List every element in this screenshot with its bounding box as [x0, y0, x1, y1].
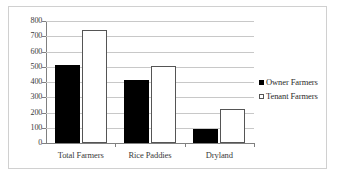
- x-axis-separator-tick: [115, 143, 116, 147]
- y-axis-tick-labels: 0100200300400500600700800: [14, 21, 42, 143]
- y-axis-tick: [42, 82, 46, 83]
- legend-label: Tenant Farmers: [266, 92, 318, 101]
- y-axis-tick: [42, 21, 46, 22]
- x-axis-category-label: Dryland: [185, 150, 254, 160]
- plot-area: [46, 21, 254, 143]
- y-axis-tick-label: 800: [16, 17, 42, 25]
- bar-tenant-farmers[interactable]: [220, 109, 245, 143]
- y-axis-tick: [42, 97, 46, 98]
- y-axis-tick: [42, 52, 46, 53]
- legend-item-tenant-farmers[interactable]: Tenant Farmers: [259, 89, 325, 103]
- bar-owner-farmers[interactable]: [55, 65, 80, 143]
- y-axis-tick: [42, 36, 46, 37]
- y-axis-tick: [42, 67, 46, 68]
- legend-label: Owner Farmers: [266, 78, 318, 87]
- gridline: [46, 52, 254, 53]
- x-axis-category-label: Rice Paddies: [115, 150, 184, 160]
- y-axis-tick: [42, 128, 46, 129]
- legend-item-owner-farmers[interactable]: Owner Farmers: [259, 75, 325, 89]
- x-axis-separator-tick: [254, 143, 255, 147]
- gridline: [46, 36, 254, 37]
- y-axis-tick-label: 500: [16, 63, 42, 71]
- legend-swatch-open-square-icon: [259, 94, 264, 99]
- legend-swatch-filled-square-icon: [259, 80, 264, 85]
- y-axis-tick-label: 400: [16, 78, 42, 86]
- bar-owner-farmers[interactable]: [193, 129, 218, 143]
- chart-container: 0100200300400500600700800 Owner Farmers …: [8, 6, 327, 169]
- gridline: [46, 21, 254, 22]
- y-axis-tick-label: 200: [16, 109, 42, 117]
- y-axis-tick: [42, 113, 46, 114]
- y-axis-tick: [42, 143, 46, 144]
- y-axis-tick-label: 0: [16, 139, 42, 147]
- x-axis-line: [46, 143, 255, 144]
- bar-tenant-farmers[interactable]: [82, 30, 107, 143]
- y-axis-tick-label: 300: [16, 93, 42, 101]
- bar-owner-farmers[interactable]: [124, 80, 149, 143]
- y-axis-tick-label: 700: [16, 32, 42, 40]
- bar-tenant-farmers[interactable]: [151, 66, 176, 143]
- y-axis-tick-label: 600: [16, 48, 42, 56]
- chart-legend: Owner Farmers Tenant Farmers: [259, 75, 325, 103]
- x-axis-separator-tick: [185, 143, 186, 147]
- y-axis-tick-label: 100: [16, 124, 42, 132]
- x-axis-category-label: Total Farmers: [46, 150, 115, 160]
